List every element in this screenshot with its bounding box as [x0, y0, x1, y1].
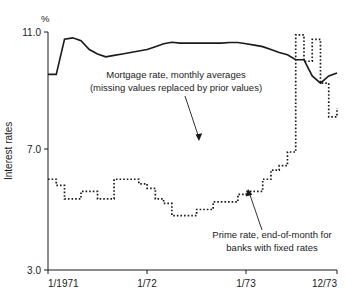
- chart-canvas: % Interest rates 11.0 7.0 3.0 1/1971 1/7…: [0, 0, 355, 303]
- prime-annotation-leader: [249, 192, 262, 230]
- x-tick-label-3: 12/73: [312, 278, 337, 289]
- y-tick-label-11: 11.0: [22, 27, 41, 38]
- prime-annotation-arrowhead: [246, 189, 253, 196]
- mortgage-annotation-line-1: Mortgage rate, monthly averages: [106, 69, 246, 80]
- x-tick-label-1: 1/72: [137, 278, 157, 289]
- mortgage-annotation-line-2: (missing values replaced by prior values…: [90, 82, 262, 93]
- mortgage-annotation-leader: [185, 96, 199, 138]
- prime-annotation-line-1: Prime rate, end-of-month for: [212, 229, 331, 240]
- prime-rate-line: [48, 35, 337, 216]
- x-tick-label-0: 1/1971: [48, 278, 79, 289]
- mortgage-annotation-arrowhead: [196, 133, 203, 141]
- y-tick-label-3: 3.0: [27, 265, 41, 276]
- y-axis-unit-label: %: [41, 13, 50, 24]
- x-tick-label-2: 1/73: [236, 278, 256, 289]
- prime-annotation-line-2: banks with fixed rates: [226, 242, 318, 253]
- y-tick-label-7: 7.0: [27, 144, 41, 155]
- interest-rates-chart: % Interest rates 11.0 7.0 3.0 1/1971 1/7…: [0, 0, 355, 303]
- y-axis-title: Interest rates: [3, 122, 14, 180]
